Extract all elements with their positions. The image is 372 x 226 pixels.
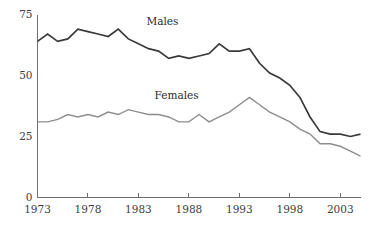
y-tick-label: 0 xyxy=(26,191,33,203)
series-line-females xyxy=(38,97,361,156)
line-chart: 0255075 1973197819831988199319982003 Mal… xyxy=(0,0,372,226)
y-tick-label: 75 xyxy=(19,8,32,20)
x-tick-label: 1993 xyxy=(226,203,253,215)
x-tick-label: 1973 xyxy=(24,203,51,215)
x-tick-label: 1983 xyxy=(125,203,152,215)
data-series-group xyxy=(38,29,361,156)
x-tick-label: 1998 xyxy=(276,203,303,215)
y-tick-label: 25 xyxy=(19,130,32,142)
x-axis-tick-labels: 1973197819831988199319982003 xyxy=(24,203,354,215)
x-tick-label: 1988 xyxy=(176,203,203,215)
x-tick-label: 1978 xyxy=(75,203,102,215)
y-axis-tick-labels: 0255075 xyxy=(19,8,32,203)
chart-container: 0255075 1973197819831988199319982003 Mal… xyxy=(0,0,372,226)
series-label-males: Males xyxy=(147,15,179,27)
x-tick-label: 2003 xyxy=(327,203,354,215)
series-line-males xyxy=(38,29,361,136)
x-axis-tick-marks xyxy=(38,193,341,198)
y-tick-label: 50 xyxy=(19,69,32,81)
series-label-females: Females xyxy=(155,89,199,101)
